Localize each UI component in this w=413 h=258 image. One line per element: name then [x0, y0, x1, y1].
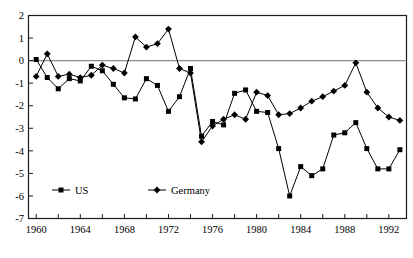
data-point-us	[320, 166, 325, 171]
legend-marker-1	[154, 187, 161, 194]
data-point-us	[353, 120, 358, 125]
data-point-germany	[231, 111, 238, 118]
y-axis-tick-label: 0	[19, 55, 24, 66]
data-point-us	[199, 134, 204, 139]
y-axis-tick-label: -7	[15, 213, 24, 224]
data-point-us	[232, 91, 237, 96]
data-point-germany	[319, 93, 326, 100]
x-axis-tick-label: 1964	[70, 224, 92, 235]
data-point-us	[100, 68, 105, 73]
legend-marker-0	[59, 188, 64, 193]
data-point-us	[122, 95, 127, 100]
data-point-us	[45, 75, 50, 80]
data-point-germany	[341, 82, 348, 89]
data-point-us	[287, 193, 292, 198]
data-point-us	[386, 166, 391, 171]
x-axis-tick-label: 1988	[334, 224, 355, 235]
y-axis-tick-label: -5	[15, 168, 24, 179]
y-axis-tick-label: 2	[19, 10, 24, 21]
data-point-germany	[308, 98, 315, 105]
data-point-germany	[121, 70, 128, 77]
data-point-germany	[33, 73, 40, 80]
data-point-us	[397, 147, 402, 152]
x-axis-tick-label: 1976	[202, 224, 223, 235]
line-chart: 210-1-2-3-4-5-6-719601964196819721976198…	[0, 0, 413, 258]
series-line-us	[36, 59, 400, 195]
data-point-us	[133, 96, 138, 101]
data-point-us	[221, 122, 226, 127]
data-point-germany	[286, 110, 293, 117]
y-axis-tick-label: -1	[15, 78, 24, 89]
data-point-us	[331, 133, 336, 138]
data-point-germany	[176, 65, 183, 72]
data-point-us	[276, 146, 281, 151]
data-point-us	[177, 94, 182, 99]
data-point-germany	[275, 111, 282, 118]
x-axis-tick-label: 1984	[290, 224, 312, 235]
data-point-germany	[253, 89, 260, 96]
data-point-germany	[44, 50, 51, 57]
x-axis-tick-label: 1992	[378, 224, 399, 235]
data-point-germany	[264, 92, 271, 99]
data-point-us	[309, 173, 314, 178]
data-point-us	[166, 109, 171, 114]
data-point-germany	[110, 65, 117, 72]
data-point-us	[265, 110, 270, 115]
data-point-us	[89, 64, 94, 69]
data-point-us	[34, 57, 39, 62]
data-point-germany	[55, 73, 62, 80]
data-point-us	[243, 87, 248, 92]
data-point-us	[364, 146, 369, 151]
y-axis-tick-label: 1	[19, 33, 24, 44]
data-point-germany	[242, 116, 249, 123]
data-point-germany	[198, 138, 205, 145]
chart-container: 210-1-2-3-4-5-6-719601964196819721976198…	[0, 0, 413, 258]
data-point-us	[111, 82, 116, 87]
x-axis-tick-label: 1968	[114, 224, 135, 235]
data-point-us	[342, 130, 347, 135]
y-axis-tick-label: -3	[15, 123, 24, 134]
y-axis-tick-label: -6	[15, 191, 24, 202]
data-point-us	[298, 164, 303, 169]
data-point-germany	[297, 105, 304, 112]
legend-label-germany: Germany	[171, 185, 211, 196]
data-point-us	[155, 83, 160, 88]
data-point-us	[144, 76, 149, 81]
data-point-germany	[330, 88, 337, 95]
data-point-germany	[396, 117, 403, 124]
y-axis-tick-label: -4	[15, 146, 24, 157]
x-axis-tick-label: 1960	[26, 224, 47, 235]
data-point-us	[375, 166, 380, 171]
data-point-us	[56, 86, 61, 91]
data-point-us	[254, 109, 259, 114]
y-axis-tick-label: -2	[15, 100, 24, 111]
x-axis-tick-label: 1980	[246, 224, 267, 235]
legend-label-us: US	[75, 185, 89, 196]
x-axis-tick-label: 1972	[158, 224, 179, 235]
data-point-germany	[363, 89, 370, 96]
